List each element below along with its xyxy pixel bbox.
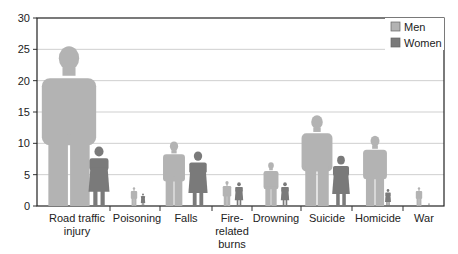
woman-figure-icon — [281, 182, 289, 206]
chart-root: 051015202530Road trafficinjuryPoisoningF… — [0, 0, 458, 254]
figure-leg — [227, 195, 230, 206]
figure-head — [194, 151, 202, 160]
figure-head — [133, 187, 135, 190]
y-tick-label: 5 — [24, 169, 30, 181]
legend-swatch — [391, 38, 400, 47]
figure-head — [268, 162, 274, 169]
x-category-label: Poisoning — [113, 212, 161, 224]
figure-head — [283, 182, 287, 186]
figure-head — [387, 189, 390, 192]
woman-figure-icon — [89, 146, 110, 206]
figure-leg — [70, 134, 90, 206]
figure-neck — [372, 145, 378, 149]
figure-leg — [237, 200, 239, 206]
man-figure-icon — [131, 187, 137, 206]
figure-head — [170, 141, 178, 151]
figure-head — [225, 181, 228, 185]
figure-leg — [134, 198, 136, 206]
figure-neck — [269, 168, 273, 170]
figure-leg — [286, 200, 288, 206]
figure-dress — [385, 195, 391, 202]
figure-head — [371, 136, 380, 147]
figure-head — [237, 182, 241, 186]
pictogram-bar-chart: 051015202530Road trafficinjuryPoisoningF… — [0, 0, 458, 254]
legend-label: Women — [404, 37, 442, 49]
figure-leg — [132, 198, 134, 206]
figure-leg — [336, 193, 340, 206]
figure-head — [94, 146, 103, 156]
figure-leg — [342, 193, 346, 206]
woman-figure-icon — [141, 193, 145, 206]
figure-leg — [388, 202, 389, 206]
figure-head — [418, 187, 420, 190]
figure-leg — [199, 192, 203, 206]
x-category-label: burns — [218, 238, 246, 250]
y-tick-label: 0 — [24, 200, 30, 212]
man-figure-icon — [302, 115, 333, 206]
man-figure-icon — [223, 181, 232, 206]
figure-leg — [366, 174, 375, 206]
figure-neck — [313, 127, 320, 132]
figure-leg — [224, 195, 227, 206]
y-tick-label: 25 — [18, 43, 30, 55]
x-category-label: War — [414, 212, 434, 224]
man-figure-icon — [163, 141, 185, 206]
figure-leg — [143, 203, 144, 206]
x-category-label: Falls — [174, 212, 198, 224]
figure-leg — [271, 186, 276, 206]
figure-leg — [265, 186, 270, 206]
y-tick-label: 15 — [18, 106, 30, 118]
figure-leg — [417, 198, 419, 206]
x-category-label: Road traffic — [49, 212, 106, 224]
x-category-label: injury — [64, 225, 91, 237]
figure-dress — [428, 204, 429, 205]
figure-leg — [305, 165, 316, 206]
figure-leg — [375, 174, 384, 206]
figure-neck — [226, 184, 228, 185]
figure-leg — [48, 134, 68, 206]
figure-dress — [141, 198, 145, 203]
figure-leg — [166, 177, 174, 206]
figure-head — [59, 46, 79, 70]
man-figure-icon — [416, 187, 422, 206]
y-tick-label: 30 — [18, 12, 30, 24]
figure-leg — [193, 192, 197, 206]
legend-label: Men — [404, 21, 425, 33]
x-category-label: Suicide — [309, 212, 345, 224]
woman-figure-icon — [332, 156, 350, 206]
figure-neck — [171, 150, 176, 153]
figure-neck — [418, 190, 420, 191]
man-figure-icon — [264, 162, 279, 206]
y-tick-label: 10 — [18, 137, 30, 149]
figure-head — [311, 115, 323, 129]
figure-head — [337, 156, 345, 165]
figure-leg — [142, 203, 143, 206]
woman-figure-icon — [385, 189, 391, 206]
x-category-label: Drowning — [253, 212, 299, 224]
figure-dress — [188, 171, 207, 193]
figure-dress — [235, 191, 243, 201]
figure-head — [142, 193, 144, 195]
y-tick-label: 20 — [18, 75, 30, 87]
figure-leg — [419, 198, 421, 206]
figure-leg — [318, 165, 329, 206]
figure-leg — [174, 177, 182, 206]
woman-figure-icon — [235, 182, 243, 206]
x-category-label: Fire- — [221, 212, 244, 224]
figure-leg — [93, 191, 97, 206]
figure-dress — [89, 167, 110, 191]
figure-leg — [283, 200, 285, 206]
x-category-label: related — [215, 225, 249, 237]
woman-figure-icon — [188, 151, 207, 206]
figure-dress — [332, 173, 350, 194]
figure-leg — [386, 202, 387, 206]
legend-swatch — [391, 22, 400, 31]
figure-neck — [133, 190, 135, 191]
man-figure-icon — [42, 46, 96, 206]
figure-leg — [240, 200, 242, 206]
figure-leg — [101, 191, 105, 206]
figure-neck — [62, 68, 75, 76]
x-category-label: Homicide — [355, 212, 401, 224]
man-figure-icon — [363, 136, 387, 206]
figure-dress — [281, 191, 289, 201]
